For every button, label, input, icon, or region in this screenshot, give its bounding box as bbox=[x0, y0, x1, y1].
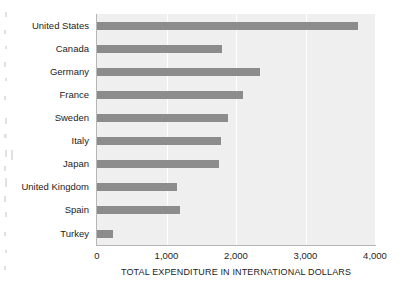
category-label: United Kingdom bbox=[0, 182, 89, 192]
gridline-2000 bbox=[236, 14, 237, 245]
bar bbox=[97, 68, 260, 76]
plot-area bbox=[97, 14, 375, 245]
category-label: Spain bbox=[0, 205, 89, 215]
bar bbox=[97, 22, 358, 30]
category-label: Canada bbox=[0, 44, 89, 54]
x-axis-title: TOTAL EXPENDITURE IN INTERNATIONAL DOLLA… bbox=[97, 267, 375, 277]
x-tick-label: 2,000 bbox=[224, 250, 248, 261]
x-tick-label: 1,000 bbox=[155, 250, 179, 261]
category-label: Sweden bbox=[0, 113, 89, 123]
scan-artifact bbox=[5, 250, 7, 253]
bar bbox=[97, 137, 221, 145]
x-tick-label: 3,000 bbox=[294, 250, 318, 261]
category-label: Turkey bbox=[0, 229, 89, 239]
bar bbox=[97, 91, 243, 99]
category-label: France bbox=[0, 90, 89, 100]
category-label: Japan bbox=[0, 159, 89, 169]
x-tick-label: 4,000 bbox=[363, 250, 387, 261]
category-axis-labels: United StatesCanadaGermanyFranceSwedenIt… bbox=[0, 14, 93, 245]
category-label: Germany bbox=[0, 67, 89, 77]
bar bbox=[97, 45, 222, 53]
category-label: Italy bbox=[0, 136, 89, 146]
bar bbox=[97, 230, 113, 238]
bar bbox=[97, 183, 177, 191]
bar-chart-figure: United StatesCanadaGermanyFranceSwedenIt… bbox=[0, 0, 403, 294]
scan-artifact bbox=[4, 266, 6, 270]
gridline-3000 bbox=[306, 14, 307, 245]
x-tick-label: 0 bbox=[94, 250, 99, 261]
x-axis-line bbox=[97, 245, 376, 246]
bar bbox=[97, 114, 228, 122]
bar bbox=[97, 206, 180, 214]
category-label: United States bbox=[0, 21, 89, 31]
bar bbox=[97, 160, 219, 168]
